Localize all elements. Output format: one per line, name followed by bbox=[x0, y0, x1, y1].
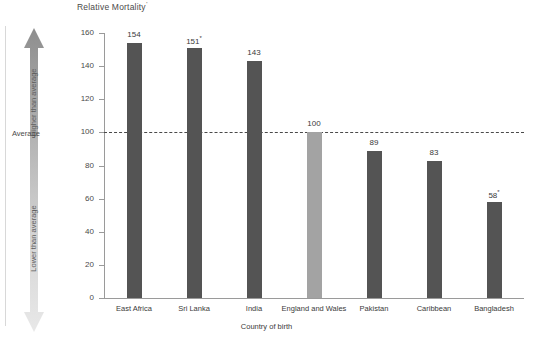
bar-group: 89 bbox=[344, 33, 404, 298]
direction-arrow: Higher than average Lower than average bbox=[14, 26, 54, 334]
bar-value-label: 100 bbox=[284, 119, 344, 128]
bar-group: 58* bbox=[464, 33, 524, 298]
average-label: Average bbox=[12, 129, 40, 138]
y-axis-tick-label: 100 bbox=[64, 127, 94, 136]
x-axis-line bbox=[104, 298, 524, 299]
bar-value-label: 89 bbox=[344, 138, 404, 147]
title-footnote-marker: ' bbox=[146, 1, 147, 7]
bar-group: 151* bbox=[164, 33, 224, 298]
bar-england-and-wales[interactable] bbox=[307, 132, 322, 298]
y-axis-tick-label: 0 bbox=[64, 293, 94, 302]
bar-value-label: 154 bbox=[104, 30, 164, 39]
left-vertical-rule bbox=[5, 26, 6, 326]
bar-sri-lanka[interactable] bbox=[187, 48, 202, 298]
y-axis-tick-label: 160 bbox=[64, 28, 94, 37]
x-axis-title: Country of birth bbox=[0, 322, 533, 331]
y-axis-tick-label: 20 bbox=[64, 260, 94, 269]
arrow-label-lower: Lower than average bbox=[29, 195, 38, 283]
chart-title-text: Relative Mortality bbox=[77, 2, 146, 12]
y-axis-tick-label: 40 bbox=[64, 227, 94, 236]
bar-value-label: 83 bbox=[404, 148, 464, 157]
bar-value-label: 151* bbox=[164, 35, 224, 46]
bar-group: 100 bbox=[284, 33, 344, 298]
bar-group: 154 bbox=[104, 33, 164, 298]
bar-pakistan[interactable] bbox=[367, 151, 382, 298]
bar-india[interactable] bbox=[247, 61, 262, 298]
bar-group: 143 bbox=[224, 33, 284, 298]
x-axis-category-label: Bangladesh bbox=[452, 304, 533, 313]
bar-caribbean[interactable] bbox=[427, 161, 442, 298]
plot-area: 020406080100120140160154151*143100898358… bbox=[104, 33, 524, 298]
bar-east-africa[interactable] bbox=[127, 43, 142, 298]
y-axis-tick-label: 120 bbox=[64, 94, 94, 103]
chart-title: Relative Mortality' bbox=[77, 1, 148, 12]
bar-value-label: 58* bbox=[464, 189, 524, 200]
value-footnote-marker: * bbox=[497, 189, 499, 195]
bar-bangladesh[interactable] bbox=[487, 202, 502, 298]
bar-value-label: 143 bbox=[224, 48, 284, 57]
bar-group: 83 bbox=[404, 33, 464, 298]
y-axis-tick-mark bbox=[99, 298, 104, 299]
value-footnote-marker: * bbox=[200, 35, 202, 41]
y-axis-tick-label: 140 bbox=[64, 61, 94, 70]
y-axis-tick-label: 80 bbox=[64, 161, 94, 170]
y-axis-tick-label: 60 bbox=[64, 194, 94, 203]
